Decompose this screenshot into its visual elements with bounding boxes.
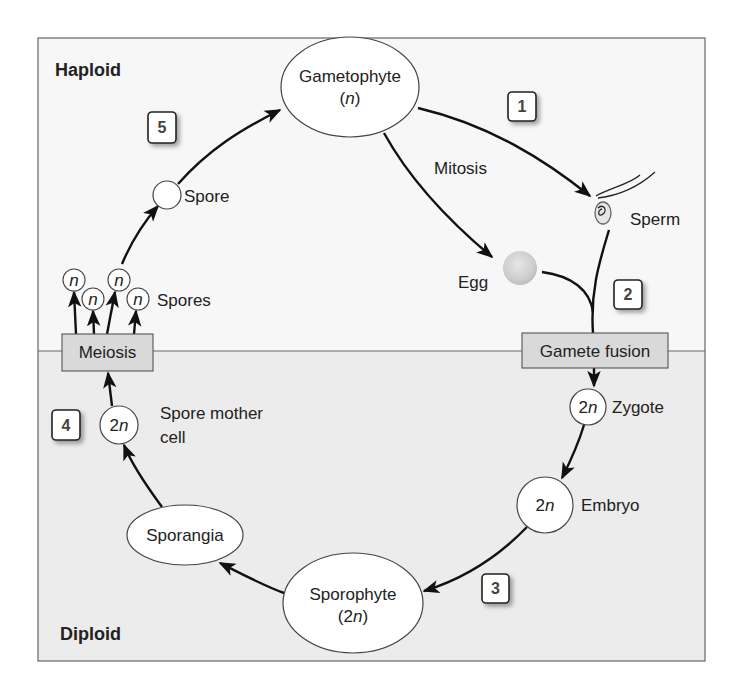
gamete-fusion-label: Gamete fusion bbox=[540, 342, 651, 361]
meiosis-box: Meiosis bbox=[62, 334, 153, 371]
svg-text:5: 5 bbox=[158, 119, 167, 136]
svg-text:2: 2 bbox=[624, 286, 633, 303]
gametophyte-label: Gametophyte bbox=[299, 67, 401, 86]
gametophyte-node: Gametophyte (n) bbox=[281, 37, 419, 137]
egg-label: Egg bbox=[458, 273, 488, 292]
svg-text:3: 3 bbox=[491, 580, 500, 597]
meiosis-label: Meiosis bbox=[79, 343, 137, 362]
step-badge-4: 4 bbox=[52, 410, 80, 440]
gametophyte-ploidy: (n) bbox=[340, 89, 361, 108]
haploid-label: Haploid bbox=[55, 60, 121, 80]
diploid-label: Diploid bbox=[60, 624, 121, 644]
embryo-ploidy: 2n bbox=[536, 496, 555, 515]
svg-text:4: 4 bbox=[62, 417, 71, 434]
gamete-fusion-box: Gamete fusion bbox=[522, 333, 668, 368]
sporophyte-ploidy: (2n) bbox=[338, 607, 368, 626]
spore-label: Spore bbox=[184, 187, 229, 206]
plant-life-cycle-diagram: Haploid Diploid Gametophyte bbox=[0, 0, 739, 692]
sporophyte-node: Sporophyte (2n) bbox=[283, 553, 423, 653]
zygote-ploidy: 2n bbox=[579, 398, 598, 417]
sporophyte-label: Sporophyte bbox=[310, 585, 397, 604]
egg-icon bbox=[503, 251, 537, 285]
spores-label: Spores bbox=[157, 291, 211, 310]
sperm-label: Sperm bbox=[630, 210, 680, 229]
embryo-label: Embryo bbox=[581, 496, 640, 515]
step-badge-5: 5 bbox=[148, 112, 176, 143]
sporangia-node: Sporangia bbox=[127, 505, 243, 565]
step-badge-1: 1 bbox=[508, 92, 536, 121]
spore-ploidy-3: n bbox=[114, 271, 123, 290]
sporangia-label: Sporangia bbox=[146, 526, 224, 545]
svg-text:1: 1 bbox=[518, 98, 527, 115]
spore-ploidy-2: n bbox=[88, 290, 97, 309]
spore-mother-cell-ploidy: 2n bbox=[110, 416, 129, 435]
mitosis-label: Mitosis bbox=[434, 159, 487, 178]
spore-ploidy-1: n bbox=[69, 271, 78, 290]
spore-ploidy-4: n bbox=[133, 290, 142, 309]
step-badge-3: 3 bbox=[482, 574, 509, 603]
step-badge-2: 2 bbox=[614, 280, 642, 309]
zygote-label: Zygote bbox=[612, 398, 664, 417]
spore-mother-cell-label-2: cell bbox=[160, 428, 186, 447]
arrow-meiosis-to-spore-2 bbox=[93, 311, 94, 334]
spore-mother-cell-label-1: Spore mother bbox=[160, 404, 263, 423]
